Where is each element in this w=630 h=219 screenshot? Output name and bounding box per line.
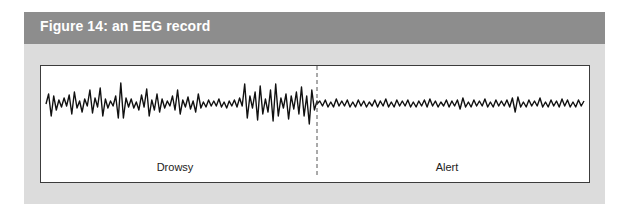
eeg-plot: Drowsy Alert xyxy=(40,65,590,183)
eeg-waveform xyxy=(46,83,584,124)
eeg-trace xyxy=(41,66,589,182)
drowsy-label: Drowsy xyxy=(157,161,194,173)
figure-panel: Figure 14: an EEG record Drowsy Alert xyxy=(24,12,605,204)
figure-header: Figure 14: an EEG record xyxy=(24,12,605,44)
figure-title: Figure 14: an EEG record xyxy=(40,18,210,34)
alert-label: Alert xyxy=(436,161,459,173)
